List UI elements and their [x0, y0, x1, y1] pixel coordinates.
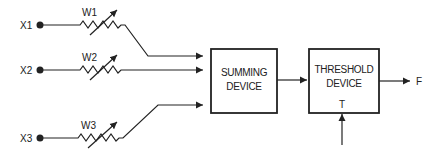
perceptron-diagram: X1 W1 X2 W2 X3 W3 SUMMING DEVICE: [0, 0, 442, 156]
input-x1-label: X1: [20, 20, 33, 31]
input-x3: X3 W3: [20, 105, 203, 148]
input-x3-label: X3: [20, 133, 33, 144]
summing-device-line1: SUMMING: [221, 67, 268, 78]
summing-device-line2: DEVICE: [226, 81, 262, 92]
weight-w1-label: W1: [82, 7, 97, 18]
weight-w2-resistor: [40, 55, 203, 80]
summing-device-block: SUMMING DEVICE: [211, 49, 277, 113]
weight-w3-label: W3: [81, 120, 96, 131]
input-x1: X1 W1: [20, 7, 203, 56]
weight-w3-resistor: [40, 105, 203, 148]
threshold-device-line2: DEVICE: [326, 78, 362, 89]
threshold-device-block: THRESHOLD DEVICE T: [309, 49, 379, 113]
threshold-input-label: T: [339, 99, 345, 110]
weight-w2-label: W2: [82, 52, 97, 63]
threshold-device-line1: THRESHOLD: [315, 64, 374, 75]
weight-w1-resistor: [40, 10, 203, 56]
input-x2-label: X2: [20, 65, 33, 76]
output-f-label: F: [416, 76, 422, 87]
